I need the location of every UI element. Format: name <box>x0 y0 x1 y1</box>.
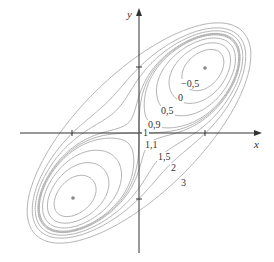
x-axis <box>20 130 262 136</box>
y-axis-arrow-icon <box>136 8 142 16</box>
x-axis-label: x <box>254 139 259 150</box>
level-label-2: 2 <box>170 163 177 173</box>
level-label-m0.5: −0,5 <box>180 79 200 89</box>
minimum-point-q3 <box>71 196 75 200</box>
level-label-0: 0 <box>177 93 184 103</box>
level-label-1: 1 <box>142 128 149 138</box>
minimum-point-q1 <box>203 66 207 70</box>
x-axis-arrow-icon <box>254 130 262 136</box>
level-label-0.9: 0,9 <box>147 120 162 130</box>
level-label-3: 3 <box>180 178 187 188</box>
y-axis-label: y <box>127 9 132 20</box>
level-label-1.1: 1,1 <box>144 140 159 150</box>
level-label-1.5: 1,5 <box>157 152 172 162</box>
level-label-0.5: 0,5 <box>160 106 175 116</box>
contour-plot <box>0 0 274 262</box>
